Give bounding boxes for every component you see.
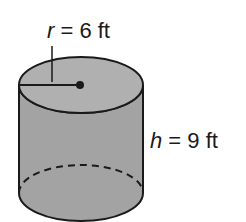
height-label: h = 9 ft xyxy=(150,128,218,153)
cylinder-diagram: r = 6 ft h = 9 ft xyxy=(0,0,246,222)
center-point xyxy=(76,81,84,89)
radius-label: r = 6 ft xyxy=(47,18,110,43)
